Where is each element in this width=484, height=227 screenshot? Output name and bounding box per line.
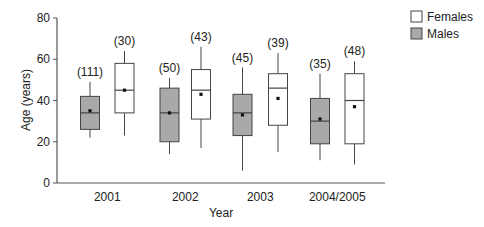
- iqr-box: [345, 74, 364, 144]
- sample-size-label: (39): [267, 36, 288, 50]
- iqr-box: [115, 63, 134, 113]
- legend-label: Males: [427, 27, 459, 41]
- mean-marker: [318, 117, 321, 120]
- box-males-2004-2005: (35): [309, 57, 330, 161]
- mean-marker: [276, 97, 279, 100]
- x-tick-label: 2004/2005: [309, 190, 366, 204]
- box-females-2002: (43): [190, 30, 211, 148]
- y-tick-label: 60: [37, 52, 51, 66]
- y-tick-label: 20: [37, 135, 51, 149]
- chart-canvas: 020406080 2001200220032004/2005 (111)(50…: [0, 0, 484, 227]
- sample-size-label: (43): [190, 30, 211, 44]
- mean-marker: [168, 111, 171, 114]
- legend-swatch: [411, 28, 422, 39]
- x-tick-label: 2003: [247, 190, 274, 204]
- sample-size-label: (45): [232, 51, 253, 65]
- box-females-2004-2005: (48): [344, 44, 365, 164]
- y-tick-label: 40: [37, 94, 51, 108]
- sample-size-label: (48): [344, 44, 365, 58]
- y-axis: 020406080: [37, 11, 57, 190]
- legend-item-females: Females: [411, 10, 473, 24]
- iqr-box: [160, 88, 179, 142]
- boxplot-chart: 020406080 2001200220032004/2005 (111)(50…: [0, 0, 484, 227]
- box-males-2003: (45): [232, 51, 253, 171]
- x-axis: 2001200220032004/2005: [57, 183, 385, 204]
- y-tick-label: 0: [43, 176, 50, 190]
- legend-label: Females: [427, 10, 473, 24]
- mean-marker: [353, 105, 356, 108]
- legend-swatch: [411, 11, 422, 22]
- box-males-2001: (111): [77, 65, 103, 138]
- sample-size-label: (50): [159, 61, 180, 75]
- box-females-2003: (39): [267, 36, 288, 152]
- sample-size-label: (35): [309, 57, 330, 71]
- legend-item-males: Males: [411, 27, 459, 41]
- sample-size-label: (30): [114, 34, 135, 48]
- mean-marker: [123, 89, 126, 92]
- sample-size-label: (111): [77, 65, 103, 79]
- mean-marker: [241, 113, 244, 116]
- x-tick-label: 2002: [172, 190, 199, 204]
- x-tick-label: 2001: [94, 190, 121, 204]
- x-axis-title: Year: [209, 206, 233, 220]
- box-males-2002: (50): [159, 61, 180, 154]
- box-females-2001: (30): [114, 34, 135, 136]
- mean-marker: [88, 109, 91, 112]
- box-groups: (111)(50)(45)(35)(30)(43)(39)(48): [77, 30, 365, 171]
- legend: FemalesMales: [411, 10, 473, 41]
- y-tick-label: 80: [37, 11, 51, 25]
- mean-marker: [199, 93, 202, 96]
- y-axis-title: Age (years): [19, 69, 33, 131]
